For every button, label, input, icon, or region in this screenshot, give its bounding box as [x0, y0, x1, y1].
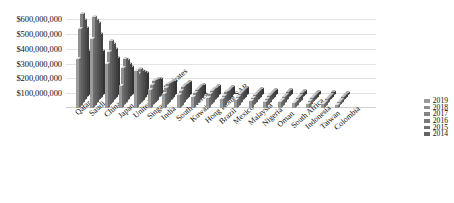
- bar-side-face: [79, 58, 81, 108]
- bar-side-face: [258, 92, 260, 100]
- legend-swatch: [424, 106, 430, 110]
- legend-swatch: [424, 112, 430, 116]
- bar-side-face: [85, 19, 87, 100]
- legend-swatch: [424, 119, 430, 123]
- bar: [191, 97, 194, 108]
- bar: [263, 102, 266, 108]
- bar-side-face: [108, 63, 110, 108]
- bar: [292, 103, 295, 108]
- bar: [220, 99, 223, 108]
- bar: [249, 101, 252, 108]
- bar-side-face: [151, 89, 153, 108]
- bar-side-face: [153, 84, 155, 105]
- bar: [335, 105, 338, 108]
- bar-side-face: [116, 48, 118, 98]
- bar-side-face: [137, 70, 139, 108]
- bar-side-face: [231, 88, 233, 98]
- bar-side-face: [215, 88, 217, 100]
- chart-container: $600,000,000$500,000,000$400,000,000$300…: [0, 0, 454, 203]
- bar-side-face: [217, 87, 219, 98]
- bar-side-face: [209, 97, 211, 108]
- bar: [148, 90, 151, 108]
- bar-side-face: [139, 73, 141, 105]
- legend-swatch: [424, 99, 430, 103]
- bar: [162, 94, 165, 108]
- category-label: Colombia: [333, 105, 362, 132]
- legend: 201920182017201620152014: [424, 98, 448, 137]
- legend-swatch: [424, 126, 430, 130]
- bar-side-face: [229, 90, 231, 100]
- legend-item[interactable]: 2014: [424, 131, 448, 137]
- legend-label: 2014: [433, 130, 448, 138]
- bar-side-face: [114, 43, 116, 100]
- bar-side-face: [233, 86, 235, 95]
- bar-side-face: [223, 98, 225, 108]
- bar-side-face: [180, 94, 182, 108]
- bar-side-face: [188, 83, 190, 98]
- bar: [105, 64, 108, 108]
- bar: [134, 71, 137, 108]
- bar-side-face: [186, 84, 188, 100]
- bar: [306, 104, 309, 108]
- bar-side-face: [145, 71, 147, 98]
- bar: [177, 95, 180, 108]
- bar-side-face: [81, 28, 83, 106]
- bar-side-face: [252, 100, 254, 108]
- bar: [206, 98, 209, 108]
- bar-side-face: [157, 79, 159, 101]
- bar-side-face: [110, 51, 112, 105]
- bar: [90, 39, 93, 108]
- bar: [321, 104, 324, 108]
- bar-side-face: [83, 13, 85, 103]
- bar-side-face: [260, 90, 262, 98]
- bar-side-face: [159, 78, 161, 97]
- bar: [278, 102, 281, 108]
- bar-side-face: [155, 80, 157, 103]
- legend-swatch: [424, 132, 430, 136]
- bar-side-face: [87, 27, 89, 97]
- bar: [76, 59, 79, 108]
- bar: [234, 100, 237, 108]
- bar-side-face: [219, 85, 221, 95]
- bar-side-face: [143, 70, 145, 101]
- bar-side-face: [141, 68, 143, 103]
- bar: [119, 86, 122, 108]
